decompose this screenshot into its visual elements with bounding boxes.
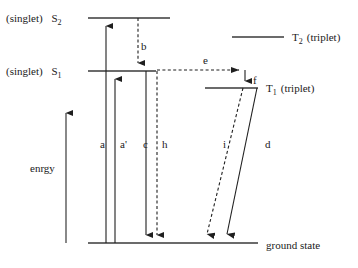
level-label-t2-subscript: 2 <box>299 37 303 46</box>
level-label-s1-multiplicity: (singlet) <box>6 65 43 78</box>
energy-axis-label: enrgy <box>30 162 55 174</box>
level-label-t1-multiplicity: (triplet) <box>281 82 315 95</box>
transition-label-a: a <box>100 138 105 150</box>
transition-arrow-i <box>207 88 243 234</box>
level-label-t2-multiplicity: (triplet) <box>307 31 341 44</box>
transition-label-h: h <box>162 138 168 150</box>
level-label-ground: ground state <box>266 239 320 251</box>
transition-label-f: f <box>253 74 257 86</box>
jablonski-diagram: (singlet) S2 (singlet) S1 T2(triplet) T1… <box>0 0 358 268</box>
level-label-t2: T2(triplet) <box>292 31 341 46</box>
level-label-s1-subscript: 1 <box>58 71 62 80</box>
level-label-t1-subscript: 1 <box>273 88 277 97</box>
level-label-s2: (singlet) S2 <box>6 12 62 27</box>
level-label-t1: T1(triplet) <box>266 82 315 97</box>
level-label-s1: (singlet) S1 <box>6 65 62 80</box>
transition-label-c: c <box>143 138 148 150</box>
level-label-s2-multiplicity: (singlet) <box>6 12 43 25</box>
transition-label-d: d <box>265 138 271 150</box>
transition-label-e: e <box>203 54 208 66</box>
transition-label-a-prime: a' <box>120 138 127 150</box>
diagram-canvas: (singlet) S2 (singlet) S1 T2(triplet) T1… <box>0 0 358 268</box>
level-label-s2-subscript: 2 <box>58 18 62 27</box>
transition-label-i: i <box>223 138 226 150</box>
transition-arrow-d <box>227 88 257 234</box>
transition-label-b: b <box>141 40 147 52</box>
